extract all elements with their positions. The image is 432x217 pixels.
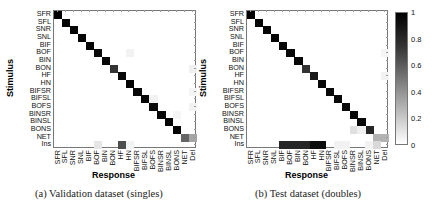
y-tick-label: Ins bbox=[204, 140, 244, 148]
heatmap-cell bbox=[381, 134, 389, 142]
tick-mark bbox=[386, 22, 388, 23]
tick-mark bbox=[386, 52, 388, 53]
tick-mark bbox=[386, 68, 388, 69]
tick-mark bbox=[321, 10, 322, 12]
tick-mark bbox=[194, 68, 196, 69]
tick-mark bbox=[194, 52, 196, 53]
heatmap-cell bbox=[189, 88, 197, 96]
tick-mark bbox=[97, 10, 98, 12]
tick-mark bbox=[274, 10, 275, 12]
heatmap-a bbox=[53, 10, 196, 148]
tick-mark bbox=[194, 106, 196, 107]
heatmap-cell bbox=[318, 141, 326, 149]
colorbar-tick-label: 0.6 bbox=[411, 61, 421, 70]
tick-mark bbox=[168, 10, 169, 12]
heatmap-cell bbox=[381, 49, 389, 57]
tick-mark bbox=[313, 10, 314, 12]
tick-mark bbox=[113, 10, 114, 12]
tick-mark bbox=[250, 10, 251, 12]
tick-mark bbox=[194, 45, 196, 46]
heatmap-cell bbox=[342, 141, 350, 149]
tick-mark bbox=[81, 10, 82, 12]
tick-mark bbox=[297, 10, 298, 12]
tick-mark bbox=[192, 10, 193, 12]
x-tick-label: NET bbox=[181, 150, 189, 182]
tick-mark bbox=[121, 10, 122, 12]
colorbar-tick-label: 0.2 bbox=[411, 114, 421, 123]
tick-mark bbox=[305, 10, 306, 12]
tick-mark bbox=[360, 10, 361, 12]
tick-mark bbox=[386, 14, 388, 15]
tick-mark bbox=[184, 10, 185, 12]
tick-mark bbox=[194, 22, 196, 23]
heatmap-cell bbox=[189, 65, 197, 73]
tick-mark bbox=[128, 10, 129, 12]
tick-mark bbox=[386, 29, 388, 30]
tick-mark bbox=[386, 98, 388, 99]
heatmap-cell bbox=[189, 134, 197, 142]
heatmap-cell bbox=[381, 72, 389, 80]
tick-mark bbox=[194, 144, 196, 145]
tick-mark bbox=[386, 83, 388, 84]
heatmap-cell bbox=[149, 95, 157, 103]
heatmap-cell bbox=[173, 111, 181, 119]
tick-mark bbox=[386, 60, 388, 61]
x-axis-title: Response bbox=[92, 170, 135, 180]
tick-mark bbox=[194, 129, 196, 130]
colorbar bbox=[395, 12, 408, 145]
tick-mark bbox=[194, 75, 196, 76]
tick-mark bbox=[89, 10, 90, 12]
colorbar-tick-label: 1 bbox=[411, 8, 415, 17]
tick-mark bbox=[194, 37, 196, 38]
tick-mark bbox=[194, 114, 196, 115]
tick-mark bbox=[386, 106, 388, 107]
tick-mark bbox=[289, 10, 290, 12]
heatmap-b bbox=[246, 10, 388, 148]
tick-mark bbox=[194, 137, 196, 138]
colorbar-tick-label: 0.8 bbox=[411, 35, 421, 44]
tick-mark bbox=[57, 10, 58, 12]
tick-mark bbox=[194, 83, 196, 84]
heatmap-cell bbox=[373, 141, 381, 149]
tick-mark bbox=[194, 29, 196, 30]
tick-mark bbox=[386, 37, 388, 38]
y-axis-title: Stimulus bbox=[198, 59, 208, 97]
panel-caption: (a) Validation dataset (singles) bbox=[35, 188, 163, 199]
heatmap-cell bbox=[126, 141, 134, 149]
heatmap-cell bbox=[94, 141, 102, 149]
tick-mark bbox=[136, 10, 137, 12]
tick-mark bbox=[376, 10, 377, 12]
tick-mark bbox=[73, 10, 74, 12]
y-tick-label: Ins bbox=[11, 140, 51, 148]
tick-mark bbox=[384, 10, 385, 12]
tick-mark bbox=[266, 10, 267, 12]
tick-mark bbox=[329, 10, 330, 12]
x-tick-label: Del bbox=[189, 150, 197, 182]
tick-mark bbox=[386, 144, 388, 145]
tick-mark bbox=[258, 10, 259, 12]
heatmap-cell bbox=[189, 103, 197, 111]
colorbar-tick-label: 0.4 bbox=[411, 88, 421, 97]
x-tick-label: Del bbox=[381, 150, 389, 182]
tick-mark bbox=[386, 129, 388, 130]
tick-mark bbox=[194, 91, 196, 92]
tick-mark bbox=[337, 10, 338, 12]
tick-mark bbox=[386, 137, 388, 138]
tick-mark bbox=[176, 10, 177, 12]
panel-caption: (b) Test dataset (doubles) bbox=[255, 188, 361, 199]
tick-mark bbox=[386, 75, 388, 76]
tick-mark bbox=[353, 10, 354, 12]
tick-mark bbox=[386, 114, 388, 115]
tick-mark bbox=[386, 45, 388, 46]
tick-mark bbox=[386, 91, 388, 92]
tick-mark bbox=[65, 10, 66, 12]
tick-mark bbox=[194, 60, 196, 61]
heatmap-cell bbox=[357, 126, 365, 134]
tick-mark bbox=[368, 10, 369, 12]
tick-mark bbox=[194, 121, 196, 122]
colorbar-tick-label: 0 bbox=[411, 141, 415, 150]
tick-mark bbox=[152, 10, 153, 12]
heatmap-cell bbox=[126, 49, 134, 57]
y-axis-title: Stimulus bbox=[5, 59, 15, 97]
tick-mark bbox=[105, 10, 106, 12]
